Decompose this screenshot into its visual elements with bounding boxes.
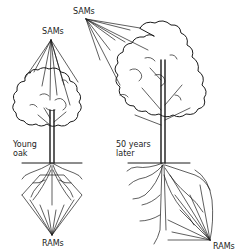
young-oak-label: Young oak: [13, 140, 37, 158]
sam-label-young-oak: SAMs: [42, 27, 64, 36]
young-oak-roots: [22, 163, 82, 205]
mature-oak-trunk: [161, 60, 165, 163]
mature-oak-canopy-detail: [120, 55, 181, 100]
diagram-canvas: [0, 0, 237, 249]
ram-label-young-oak: RAMs: [42, 239, 64, 248]
sam-label-mature-oak: SAMs: [73, 7, 95, 16]
ram-label-mature-oak: RAMs: [213, 242, 235, 249]
mature-oak-label: 50 years later: [116, 140, 151, 158]
mature-oak-sam-rays: [86, 19, 148, 85]
young-oak-trunk: [50, 110, 54, 163]
mature-oak-roots: [127, 163, 210, 244]
mature-oak-tree: [86, 19, 213, 244]
young-oak-canopy-detail: [30, 80, 68, 111]
young-oak-tree: [13, 40, 82, 235]
young-oak-canopy: [13, 68, 82, 127]
young-oak-sam-rays: [25, 40, 78, 105]
mature-oak-ram-rays: [168, 170, 213, 240]
